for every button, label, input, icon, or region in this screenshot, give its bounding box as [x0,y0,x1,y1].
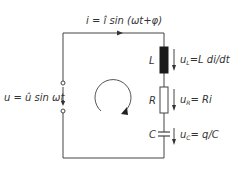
mesh-circulation-icon [95,80,131,111]
current-arrow-icon [117,31,123,36]
inductor-symbol [160,47,168,73]
uR-label: uR= Ri [180,94,212,106]
inductor-label: L [149,55,155,66]
uL-label: uL=L di/dt [180,54,231,66]
resistor-symbol [160,87,168,113]
capacitor-label: C [149,129,156,140]
current-label: i = î sin (ωt+φ) [86,15,162,26]
resistor-label: R [149,95,156,106]
source-terminal-top [61,81,65,85]
source-voltage-label: u = û sin ωt [4,92,65,103]
source-terminal-bottom [61,109,65,113]
uC-label: uC= q/C [180,129,219,141]
mesh-arrowhead-icon [121,107,128,115]
capacitor-symbol [158,132,170,136]
circuit-diagram: i = î sin (ωt+φ) u = û sin ωt L uL=L di/… [0,0,247,175]
